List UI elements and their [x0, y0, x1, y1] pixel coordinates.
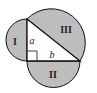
label-III: III: [60, 24, 72, 35]
label-side-a: a: [30, 35, 35, 46]
pythagorean-semicircles-diagram: I II III a b: [0, 0, 97, 93]
label-II: II: [49, 69, 57, 80]
label-I: I: [13, 36, 17, 47]
label-side-b: b: [50, 49, 55, 60]
